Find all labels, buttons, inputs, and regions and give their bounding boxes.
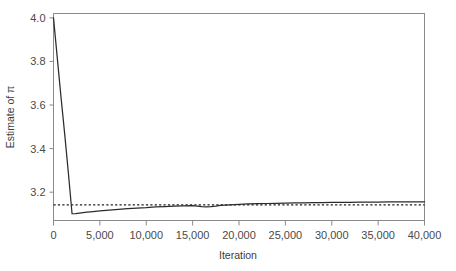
y-axis-title: Estimate of π — [4, 86, 16, 149]
x-tick-label: 35,000 — [361, 229, 395, 241]
x-tick-label: 10,000 — [129, 229, 163, 241]
plot-area-frame — [54, 14, 425, 221]
y-tick-label: 3.4 — [30, 143, 45, 155]
x-tick-label: 40,000 — [408, 229, 442, 241]
y-tick-label: 3.8 — [30, 55, 45, 67]
x-tick-label: 5,000 — [86, 229, 114, 241]
x-tick-label: 15,000 — [176, 229, 210, 241]
x-axis-title: Iteration — [219, 249, 257, 261]
x-axis-ticks: 05,00010,00015,00020,00025,00030,00035,0… — [50, 221, 441, 241]
x-tick-label: 30,000 — [315, 229, 349, 241]
y-tick-label: 4.0 — [30, 12, 45, 24]
x-tick-label: 25,000 — [269, 229, 303, 241]
y-axis-ticks: 3.23.43.63.84.0 — [30, 12, 53, 198]
y-tick-label: 3.6 — [30, 99, 45, 111]
x-tick-label: 20,000 — [222, 229, 256, 241]
y-tick-label: 3.2 — [30, 186, 45, 198]
pi-estimate-chart: 3.23.43.63.84.0 05,00010,00015,00020,000… — [0, 0, 456, 271]
chart-canvas: 3.23.43.63.84.0 05,00010,00015,00020,000… — [0, 0, 456, 271]
x-tick-label: 0 — [50, 229, 56, 241]
